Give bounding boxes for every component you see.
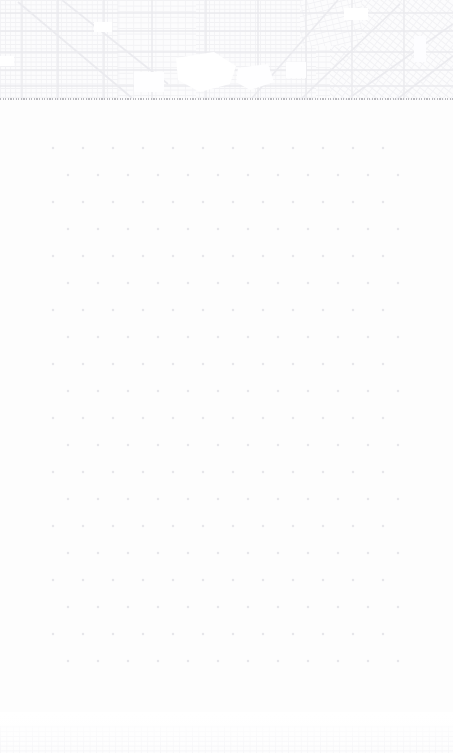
grid-dot xyxy=(157,282,160,285)
grid-dot xyxy=(112,579,115,582)
grid-dot xyxy=(127,390,130,393)
grid-dot xyxy=(322,471,325,474)
grid-dot xyxy=(352,633,355,636)
grid-dot xyxy=(97,228,100,231)
grid-dot xyxy=(82,147,85,150)
grid-dot xyxy=(187,552,190,555)
grid-dot xyxy=(382,417,385,420)
grid-dot xyxy=(82,579,85,582)
grid-dot xyxy=(232,255,235,258)
grid-dot xyxy=(142,525,145,528)
grid-dot xyxy=(217,390,220,393)
grid-dot xyxy=(352,309,355,312)
grid-dot xyxy=(112,255,115,258)
grid-dot xyxy=(277,660,280,663)
grid-dot xyxy=(397,390,400,393)
grid-dot xyxy=(277,228,280,231)
grid-dot xyxy=(292,147,295,150)
grid-dot xyxy=(247,660,250,663)
grid-dot xyxy=(247,174,250,177)
grid-dot xyxy=(277,606,280,609)
grid-dot xyxy=(202,579,205,582)
grid-dot xyxy=(82,471,85,474)
grid-dot xyxy=(382,525,385,528)
grid-dot xyxy=(247,282,250,285)
grid-dot xyxy=(277,498,280,501)
grid-dot xyxy=(352,201,355,204)
grid-dot xyxy=(187,174,190,177)
grid-dot xyxy=(97,660,100,663)
grid-dot xyxy=(307,336,310,339)
grid-dot xyxy=(337,174,340,177)
map-canvas xyxy=(0,0,453,100)
grid-dot xyxy=(52,471,55,474)
grid-dot xyxy=(322,579,325,582)
grid-dot xyxy=(202,255,205,258)
grid-dot xyxy=(127,660,130,663)
grid-dot xyxy=(307,660,310,663)
grid-dot xyxy=(277,444,280,447)
grid-dot xyxy=(397,498,400,501)
grid-dot xyxy=(127,606,130,609)
grid-dot xyxy=(307,228,310,231)
grid-dot xyxy=(112,309,115,312)
grid-dot xyxy=(172,255,175,258)
grid-dot xyxy=(142,363,145,366)
grid-dot xyxy=(262,201,265,204)
grid-dot xyxy=(262,471,265,474)
grid-dot xyxy=(202,309,205,312)
faint-texture-band xyxy=(0,712,453,753)
grid-dot xyxy=(217,444,220,447)
grid-dot xyxy=(52,309,55,312)
grid-dot xyxy=(67,552,70,555)
grid-dot xyxy=(247,498,250,501)
grid-dot xyxy=(337,606,340,609)
grid-dot xyxy=(352,417,355,420)
grid-dot xyxy=(382,201,385,204)
grid-dot xyxy=(277,282,280,285)
grid-dot xyxy=(202,147,205,150)
grid-dot xyxy=(187,606,190,609)
grid-dot xyxy=(187,282,190,285)
grid-dot xyxy=(277,174,280,177)
grid-dot xyxy=(322,417,325,420)
bottom-band-canvas xyxy=(0,712,453,753)
grid-dot xyxy=(352,471,355,474)
grid-dot xyxy=(157,606,160,609)
grid-dot xyxy=(112,633,115,636)
grid-dot xyxy=(397,282,400,285)
grid-dot xyxy=(262,363,265,366)
grid-dot xyxy=(292,525,295,528)
grid-dot xyxy=(367,498,370,501)
grid-dot xyxy=(67,444,70,447)
staggered-dot-grid[interactable] xyxy=(0,100,453,710)
faded-city-map[interactable] xyxy=(0,0,453,100)
grid-dot xyxy=(97,498,100,501)
grid-dot xyxy=(397,174,400,177)
grid-dot xyxy=(97,336,100,339)
grid-dot xyxy=(262,633,265,636)
grid-dot xyxy=(337,282,340,285)
grid-dot xyxy=(367,228,370,231)
grid-dot xyxy=(247,336,250,339)
grid-dot xyxy=(172,471,175,474)
grid-dot xyxy=(217,228,220,231)
dot-grid-background xyxy=(0,100,453,710)
grid-dot xyxy=(307,444,310,447)
grid-dot xyxy=(322,147,325,150)
grid-dot xyxy=(67,336,70,339)
grid-dot xyxy=(307,174,310,177)
grid-dot xyxy=(52,363,55,366)
grid-dot xyxy=(202,201,205,204)
grid-dot xyxy=(292,201,295,204)
grid-dot xyxy=(382,579,385,582)
grid-dot xyxy=(142,471,145,474)
grid-dot xyxy=(67,282,70,285)
grid-dot xyxy=(112,201,115,204)
grid-dot xyxy=(97,606,100,609)
grid-dot xyxy=(142,417,145,420)
bottom-band-fade xyxy=(0,712,453,753)
grid-dot xyxy=(397,606,400,609)
grid-dot xyxy=(187,444,190,447)
grid-dot xyxy=(217,174,220,177)
